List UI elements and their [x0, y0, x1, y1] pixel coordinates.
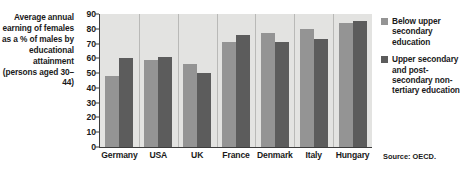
- bar: [158, 57, 172, 147]
- bar: [183, 64, 197, 147]
- x-axis-label: France: [217, 150, 256, 160]
- bar: [197, 73, 211, 147]
- bar-groups: [100, 14, 372, 147]
- bar: [222, 42, 236, 147]
- group-separator: [333, 14, 334, 147]
- x-axis-label: Germany: [100, 150, 139, 160]
- legend-swatch-icon: [381, 18, 388, 25]
- y-tick-mark: [95, 132, 99, 133]
- legend-item: Upper secondary and post-secondary non-t…: [381, 54, 469, 96]
- plot-area: [100, 14, 372, 147]
- x-axis-label: USA: [139, 150, 178, 160]
- chart-caption: Average annual earning of females as a %…: [0, 12, 74, 88]
- bar-group: [139, 14, 178, 147]
- group-separator: [178, 14, 179, 147]
- bar: [105, 76, 119, 147]
- legend-item: Below upper secondary education: [381, 16, 469, 47]
- bar: [236, 35, 250, 147]
- x-axis-label: Hungary: [333, 150, 372, 160]
- y-tick-mark: [95, 102, 99, 103]
- y-tick-mark: [95, 14, 99, 15]
- bar-group: [100, 14, 139, 147]
- chart-legend: Below upper secondary educationUpper sec…: [381, 16, 469, 103]
- x-axis-label: Italy: [294, 150, 333, 160]
- group-separator: [294, 14, 295, 147]
- x-axis-labels: GermanyUSAUKFranceDenmarkItalyHungary: [100, 150, 372, 160]
- legend-label: Upper secondary and post-secondary non-t…: [392, 54, 469, 96]
- legend-swatch-icon: [381, 56, 388, 63]
- chart-figure: Average annual earning of females as a %…: [0, 0, 469, 186]
- legend-label: Below upper secondary education: [392, 16, 469, 47]
- bar: [300, 29, 314, 147]
- x-axis-label: UK: [178, 150, 217, 160]
- x-axis-line: [99, 147, 372, 148]
- bar: [314, 39, 328, 147]
- group-separator: [139, 14, 140, 147]
- source-note: Source: OECD.: [383, 152, 436, 161]
- y-tick-mark: [95, 87, 99, 88]
- y-tick-mark: [95, 73, 99, 74]
- bar-group: [255, 14, 294, 147]
- x-axis-label: Denmark: [255, 150, 294, 160]
- bar-group: [294, 14, 333, 147]
- bar: [275, 42, 289, 147]
- bar: [119, 58, 133, 147]
- group-separator: [255, 14, 256, 147]
- bar: [339, 23, 353, 147]
- bar: [261, 33, 275, 147]
- y-tick-mark: [95, 147, 99, 148]
- bar-group: [333, 14, 372, 147]
- y-tick-mark: [95, 117, 99, 118]
- group-separator: [217, 14, 218, 147]
- bar: [353, 21, 367, 147]
- y-tick-mark: [95, 58, 99, 59]
- bar: [144, 60, 158, 147]
- y-tick-mark: [95, 28, 99, 29]
- bar-group: [178, 14, 217, 147]
- y-tick-mark: [95, 43, 99, 44]
- bar-group: [217, 14, 256, 147]
